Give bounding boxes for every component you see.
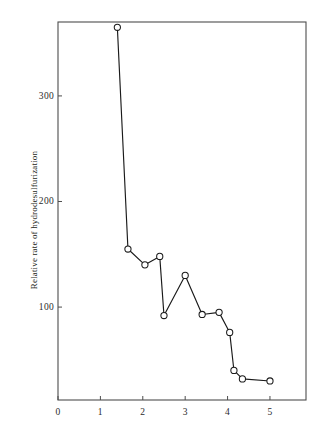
x-axis-tick-label: 0	[55, 407, 60, 417]
data-point-marker	[231, 367, 237, 373]
x-axis-tick-label: 3	[183, 407, 188, 417]
y-axis-tick-label: 100	[30, 302, 54, 312]
x-axis-ticks	[58, 396, 270, 400]
y-axis-tick-label: 300	[30, 91, 54, 101]
data-point-marker	[161, 312, 167, 318]
axis-frame	[58, 22, 306, 400]
chart-figure: Relative rate of hydrodesulfurization 01…	[0, 0, 324, 439]
x-axis-tick-label: 2	[140, 407, 145, 417]
data-point-marker	[227, 329, 233, 335]
data-point-marker	[142, 262, 148, 268]
data-point-marker	[182, 272, 188, 278]
data-point-marker	[199, 311, 205, 317]
data-point-marker	[239, 376, 245, 382]
data-point-marker	[216, 309, 222, 315]
x-axis-tick-label: 4	[225, 407, 230, 417]
data-point-marker	[114, 24, 120, 30]
x-axis-tick-label: 1	[98, 407, 103, 417]
data-point-marker	[125, 246, 131, 252]
plot-area	[0, 0, 324, 439]
data-series-markers	[114, 24, 273, 384]
data-point-marker	[267, 378, 273, 384]
x-axis-tick-label: 5	[267, 407, 272, 417]
y-axis-tick-label: 200	[30, 196, 54, 206]
data-point-marker	[157, 253, 163, 259]
data-series-line	[117, 27, 270, 381]
y-axis-ticks	[58, 96, 62, 307]
